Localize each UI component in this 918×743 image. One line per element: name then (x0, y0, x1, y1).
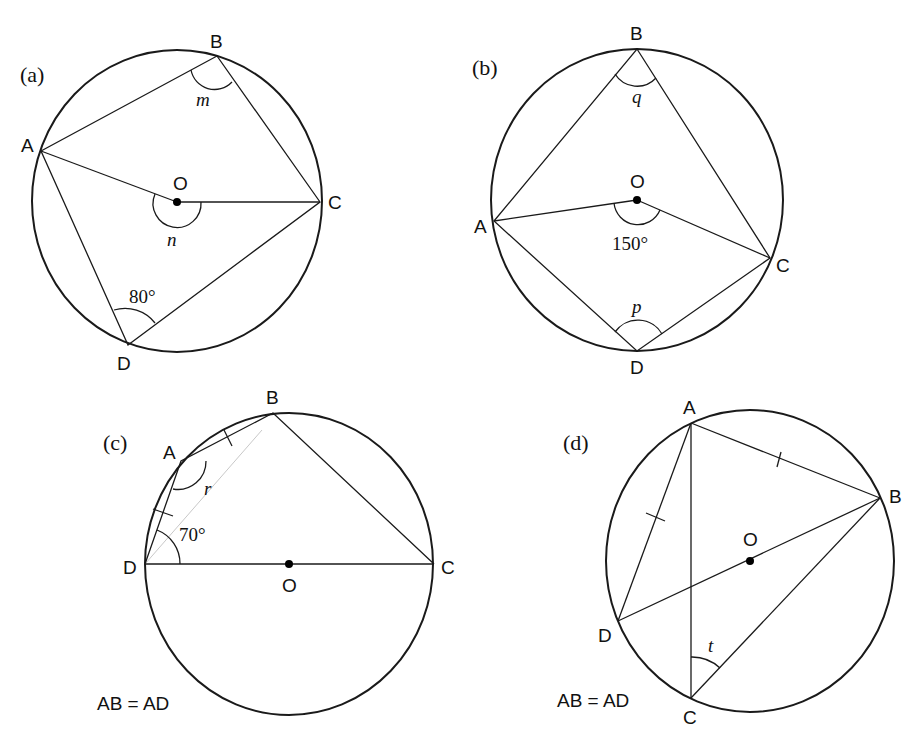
angle-label-q: q (632, 86, 642, 107)
angle-arc-a-c (173, 461, 206, 489)
figure-b: (b) B A O C D q 150° p (472, 23, 790, 378)
radius-oc-b (637, 200, 770, 258)
angle-label-70: 70° (179, 524, 206, 545)
equal-tick-ad-c (153, 509, 173, 516)
angle-arc-d-a (114, 308, 155, 323)
condition-text-d: AB = AD (557, 690, 629, 711)
angle-label-r: r (204, 478, 212, 499)
center-dot-a (173, 198, 181, 206)
point-label-o-c: O (282, 575, 297, 596)
point-label-c-d: C (683, 707, 697, 728)
center-dot-c (285, 560, 293, 568)
part-label-d: (d) (563, 430, 589, 455)
point-label-o-a: O (173, 173, 188, 194)
radius-oa-a (41, 151, 177, 202)
condition-text-c: AB = AD (97, 693, 169, 714)
angle-arc-o-b (614, 203, 660, 225)
point-label-d-a: D (117, 353, 131, 374)
point-label-c-b: C (776, 255, 790, 276)
angle-arc-b-a (191, 70, 232, 89)
equal-tick-ab-d (777, 452, 781, 467)
center-dot-b (633, 196, 641, 204)
figure-c: (c) B A D C O r 70° AB = AD (97, 387, 455, 715)
circle-theorem-diagrams: (a) B A O C D m n 80° (b) B A O C D q (0, 0, 918, 743)
point-label-a-b: A (474, 216, 487, 237)
angle-arc-b-b (615, 74, 656, 86)
angle-arc-c-d (691, 657, 720, 668)
point-label-b-b: B (630, 23, 643, 44)
center-dot-d (746, 557, 754, 565)
point-label-a-c: A (163, 442, 176, 463)
part-label-c: (c) (103, 430, 127, 455)
point-label-c-a: C (328, 192, 342, 213)
angle-label-t: t (708, 635, 714, 656)
angle-label-80: 80° (129, 286, 156, 307)
angle-label-p: p (630, 296, 642, 317)
part-label-b: (b) (472, 55, 498, 80)
point-label-b-c: B (266, 387, 279, 408)
point-label-b-d: B (889, 486, 902, 507)
point-label-d-d: D (598, 625, 612, 646)
point-label-d-b: D (630, 357, 644, 378)
angle-label-150: 150° (612, 233, 648, 254)
angle-arc-d-b (615, 320, 662, 334)
angle-label-m: m (196, 89, 210, 110)
angle-label-n: n (167, 229, 177, 250)
figure-a: (a) B A O C D m n 80° (20, 31, 342, 374)
figure-d: (d) A B O D C t AB = AD (557, 397, 902, 728)
point-label-o-d: O (743, 529, 758, 550)
point-label-b-a: B (210, 31, 223, 52)
part-label-a: (a) (20, 62, 44, 87)
point-label-o-b: O (630, 171, 645, 192)
chord-ab-d (691, 423, 880, 498)
point-label-d-c: D (123, 557, 137, 578)
point-label-c-c: C (441, 557, 455, 578)
point-label-a-d: A (683, 397, 696, 418)
point-label-a-a: A (21, 135, 34, 156)
